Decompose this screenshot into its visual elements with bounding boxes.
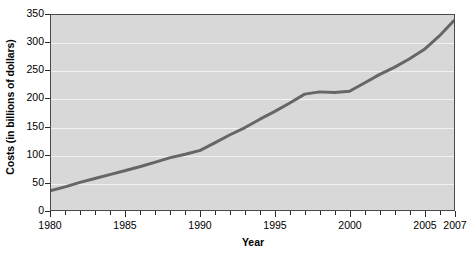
- x-tick-mark-1987: [155, 211, 156, 215]
- y-tick-label-200: 200: [12, 91, 44, 103]
- x-tick-label-1990: 1990: [175, 219, 225, 231]
- y-tick-mark-200: [45, 98, 50, 99]
- x-axis-title: Year: [50, 236, 456, 248]
- x-tick-mark-1984: [110, 211, 111, 215]
- x-tick-label-2007: 2007: [430, 219, 476, 231]
- x-tick-mark-2001: [365, 211, 366, 215]
- x-tick-label-1985: 1985: [100, 219, 150, 231]
- x-tick-mark-1998: [320, 211, 321, 215]
- x-tick-mark-2003: [395, 211, 396, 215]
- x-tick-mark-1982: [80, 211, 81, 215]
- x-tick-mark-1985: [125, 211, 126, 217]
- x-tick-mark-1992: [230, 211, 231, 215]
- y-tick-mark-100: [45, 155, 50, 156]
- x-tick-mark-2004: [410, 211, 411, 215]
- y-tick-mark-250: [45, 70, 50, 71]
- x-tick-mark-1988: [170, 211, 171, 215]
- x-tick-mark-2005: [425, 211, 426, 217]
- series-costs: [51, 15, 454, 210]
- y-tick-mark-350: [45, 14, 50, 15]
- y-tick-mark-150: [45, 127, 50, 128]
- x-tick-mark-2006: [440, 211, 441, 215]
- x-tick-mark-2002: [380, 211, 381, 215]
- x-tick-mark-1989: [185, 211, 186, 215]
- x-tick-label-1980: 1980: [25, 219, 75, 231]
- x-tick-mark-1996: [290, 211, 291, 215]
- x-tick-mark-1990: [200, 211, 201, 217]
- series-costs-line: [51, 21, 454, 191]
- x-tick-label-1995: 1995: [250, 219, 300, 231]
- x-tick-mark-1981: [65, 211, 66, 215]
- x-tick-mark-2007: [455, 211, 456, 217]
- y-tick-label-50: 50: [12, 176, 44, 188]
- y-tick-label-100: 100: [12, 148, 44, 160]
- x-tick-mark-1997: [305, 211, 306, 215]
- x-tick-mark-1991: [215, 211, 216, 215]
- x-tick-mark-1980: [50, 211, 51, 217]
- x-tick-label-2000: 2000: [325, 219, 375, 231]
- x-tick-mark-1986: [140, 211, 141, 215]
- chart-figure: Costs (in billions of dollars) 050100150…: [0, 0, 476, 265]
- y-tick-mark-300: [45, 42, 50, 43]
- x-tick-mark-1999: [335, 211, 336, 215]
- y-tick-label-350: 350: [12, 7, 44, 19]
- y-tick-label-0: 0: [12, 204, 44, 216]
- y-tick-label-300: 300: [12, 35, 44, 47]
- x-tick-mark-1995: [275, 211, 276, 217]
- plot-area: [50, 14, 455, 211]
- x-tick-mark-1993: [245, 211, 246, 215]
- y-tick-mark-50: [45, 183, 50, 184]
- x-tick-mark-2000: [350, 211, 351, 217]
- y-tick-label-250: 250: [12, 63, 44, 75]
- x-tick-mark-1983: [95, 211, 96, 215]
- y-tick-label-150: 150: [12, 120, 44, 132]
- x-tick-mark-1994: [260, 211, 261, 215]
